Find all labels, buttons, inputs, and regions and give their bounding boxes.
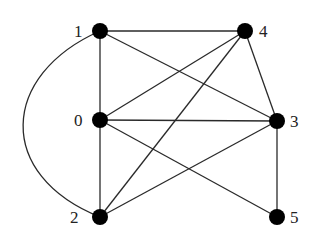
- node-4: [237, 23, 253, 39]
- node-label-1: 1: [74, 22, 83, 41]
- node-2: [92, 209, 108, 225]
- node-label-4: 4: [259, 22, 268, 41]
- node-label-5: 5: [290, 208, 299, 227]
- graph-diagram: 0 1 2 3 4 5: [0, 0, 321, 236]
- edge-1-2-curve: [23, 31, 100, 217]
- edge-2-4: [100, 31, 245, 217]
- node-label-3: 3: [290, 112, 299, 131]
- edge-0-4: [100, 31, 245, 120]
- node-0: [92, 112, 108, 128]
- nodes: [92, 23, 285, 225]
- edge-0-3: [100, 120, 277, 121]
- edges: [23, 31, 277, 217]
- node-1: [92, 23, 108, 39]
- node-3: [269, 113, 285, 129]
- node-label-2: 2: [70, 208, 79, 227]
- node-label-0: 0: [74, 111, 83, 130]
- node-5: [269, 209, 285, 225]
